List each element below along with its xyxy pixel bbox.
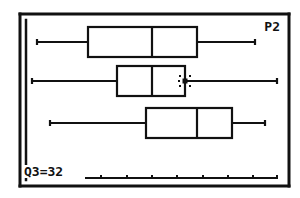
box-plots (32, 27, 277, 138)
plot-indicator: P2 (264, 20, 280, 33)
box-plot-1 (37, 27, 255, 57)
box-plot-3 (50, 108, 265, 138)
box-plot-2 (32, 66, 277, 96)
x-axis (85, 175, 278, 178)
calculator-screen: P2 Q3=32 (0, 0, 300, 198)
trace-readout: Q3=32 (24, 165, 65, 178)
